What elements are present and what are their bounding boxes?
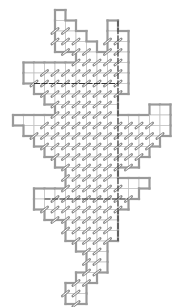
grid-cell xyxy=(55,10,66,21)
grid-cell xyxy=(129,178,140,189)
grid-cell xyxy=(34,63,45,74)
grid-cell xyxy=(34,115,45,126)
grid-cell xyxy=(34,199,45,210)
grid-cell xyxy=(45,189,56,200)
grid-cell xyxy=(160,115,171,126)
grid-cell xyxy=(24,63,35,74)
grid-cells xyxy=(13,10,171,304)
grid-cell xyxy=(160,105,171,116)
grid-cell xyxy=(139,178,150,189)
tile-grid-diagram xyxy=(0,0,174,307)
grid-cell xyxy=(24,115,35,126)
grid-cell xyxy=(108,21,119,32)
grid-cell xyxy=(150,105,161,116)
grid-cell xyxy=(13,115,24,126)
grid-cell xyxy=(24,126,35,137)
grid-cell xyxy=(24,73,35,84)
grid-cell xyxy=(34,189,45,200)
